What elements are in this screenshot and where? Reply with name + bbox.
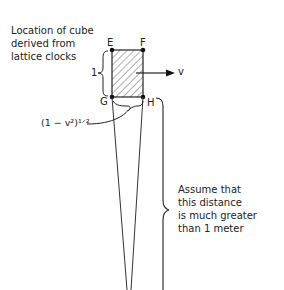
label-point-e: E — [107, 37, 113, 48]
label-contracted-length: (1 − v²)¹ᐟ² — [41, 117, 90, 130]
contracted-length-brace — [113, 101, 143, 111]
label-point-g: G — [100, 96, 108, 107]
point-e-dot — [110, 48, 115, 53]
sight-line-g — [112, 97, 127, 290]
unit-length-brace — [98, 51, 108, 96]
caption-line-2: derived from — [11, 38, 75, 51]
note-line-4: than 1 meter — [178, 222, 244, 235]
note-line-2: this distance — [178, 196, 242, 209]
contracted-leader-line — [87, 110, 128, 124]
sight-line-h — [131, 97, 143, 290]
label-point-f: F — [140, 37, 146, 48]
label-velocity: v — [178, 66, 184, 77]
label-unit-length: 1 — [91, 67, 97, 78]
note-line-3: is much greater — [178, 209, 257, 222]
caption-line-1: Location of cube — [11, 25, 94, 38]
label-point-h: H — [147, 97, 155, 108]
point-f-dot — [141, 48, 146, 53]
distance-brace — [156, 98, 169, 290]
note-line-1: Assume that — [178, 183, 241, 196]
caption-line-3: lattice clocks — [11, 51, 76, 64]
